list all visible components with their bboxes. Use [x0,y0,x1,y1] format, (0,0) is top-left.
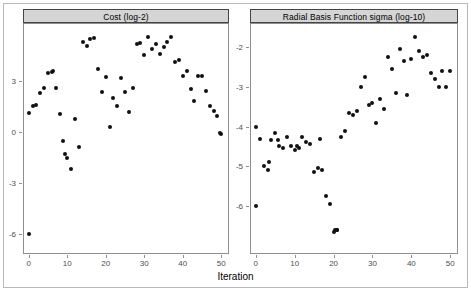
data-point [204,89,208,93]
data-point [355,109,359,113]
y-axis-tick [246,87,249,88]
x-axis-label: 50 [446,259,455,268]
data-point [390,67,394,71]
data-point [394,91,398,95]
data-point [85,44,89,48]
x-axis-label: 0 [254,259,258,268]
x-axis-tick [334,255,335,258]
x-axis-label: 0 [27,259,31,268]
y-axis-label: -5 [226,162,243,171]
data-point [27,111,31,115]
data-point [208,104,212,108]
x-axis-label: 40 [178,259,187,268]
x-axis-tick [183,255,184,258]
data-point [254,125,258,129]
data-point [58,112,62,116]
x-axis-tick [67,255,68,258]
data-point [266,168,270,172]
y-axis-tick [19,81,22,82]
x-axis-label: 10 [290,259,299,268]
data-point [339,135,343,139]
data-point [417,49,421,53]
data-point [425,53,429,57]
y-axis-label: -4 [226,122,243,131]
data-point [378,97,382,101]
y-axis-label: -3 [0,178,16,187]
data-point [189,87,193,91]
x-axis-tick [256,255,257,258]
data-point [328,202,332,206]
data-point [343,129,347,133]
y-axis-tick [246,206,249,207]
y-axis-tick [19,234,22,235]
data-point [437,85,441,89]
x-axis-label: 40 [407,259,416,268]
x-axis-label: 30 [140,259,149,268]
data-point [158,52,162,56]
x-axis-tick [411,255,412,258]
data-point [38,91,42,95]
data-point [374,121,378,125]
data-point [162,45,166,49]
x-axis-tick [106,255,107,258]
data-point [123,90,127,94]
y-axis-label: -6 [0,229,16,238]
data-point [258,137,262,141]
data-point [96,67,100,71]
y-axis-label: -3 [226,82,243,91]
data-point [363,75,367,79]
plot-area-cost [23,23,229,254]
x-axis-tick [450,255,451,258]
panel-title-rbf-sigma: Radial Basis Function sigma (log-10) [250,9,458,23]
data-point [200,74,204,78]
y-axis-label: -2 [226,42,243,51]
data-point [386,55,390,59]
data-point [212,109,216,113]
x-axis-label: 10 [63,259,72,268]
data-point [402,59,406,63]
data-point [146,35,150,39]
data-point [448,69,452,73]
data-point [81,40,85,44]
data-point [318,137,322,141]
scatter-figure: Cost (log-2) -6-30301020304050 Radial Ba… [0,0,471,291]
y-axis-label: 0 [0,127,16,136]
x-axis-tick [144,255,145,258]
data-point [104,75,108,79]
plot-area-rbf-sigma [250,23,458,254]
data-point [433,77,437,81]
x-axis-label: 20 [101,259,110,268]
x-axis-label: 50 [217,259,226,268]
y-axis-tick [19,132,22,133]
y-axis-tick [246,166,249,167]
x-axis-tick [221,255,222,258]
data-point [273,131,277,135]
data-point [185,69,189,73]
data-point [127,110,131,114]
y-axis-label: -6 [226,202,243,211]
y-axis-tick [19,183,22,184]
x-axis-title: Iteration [0,271,471,282]
data-point [398,47,402,51]
x-axis-label: 30 [368,259,377,268]
data-point [285,135,289,139]
data-point [177,58,181,62]
data-point [100,90,104,94]
data-point [351,113,355,117]
data-point [27,232,31,236]
y-axis-tick [246,127,249,128]
y-axis-label: 3 [0,76,16,85]
data-point [382,107,386,111]
x-axis-label: 20 [329,259,338,268]
x-axis-tick [29,255,30,258]
panel-title-cost: Cost (log-2) [23,9,229,23]
data-point [54,86,58,90]
data-point [359,85,363,89]
data-point [77,145,81,149]
y-axis-tick [246,47,249,48]
data-point [73,117,77,121]
data-point [429,71,433,75]
data-point [181,74,185,78]
x-axis-tick [295,255,296,258]
x-axis-tick [372,255,373,258]
